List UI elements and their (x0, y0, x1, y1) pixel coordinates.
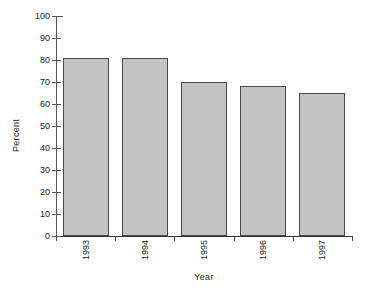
y-axis-tick-label: 10 (40, 210, 50, 219)
y-axis-tick-label: 80 (40, 56, 50, 65)
plot-area (56, 16, 352, 236)
bar (122, 58, 168, 236)
x-axis-tick-label-group: 19931994199519961997 (56, 240, 352, 274)
y-axis-tick-label: 0 (45, 232, 50, 241)
x-axis-tick-label: 1994 (141, 240, 150, 260)
y-axis-tick-label: 60 (40, 100, 50, 109)
y-axis-tick-label: 90 (40, 34, 50, 43)
y-axis-tick-mark (52, 236, 63, 237)
x-axis-tick-label: 1996 (259, 240, 268, 260)
y-axis-tick-label: 50 (40, 122, 50, 131)
bar (299, 93, 345, 236)
bar (63, 58, 109, 236)
bar-series-group (56, 16, 352, 236)
x-axis-tick-mark (352, 236, 353, 241)
y-axis-tick-label-group: 0102030405060708090100 (24, 10, 50, 242)
y-axis-tick-label: 100 (35, 12, 50, 21)
x-axis-line (55, 236, 352, 237)
y-axis-tick-label: 70 (40, 78, 50, 87)
x-axis-tick-label: 1993 (82, 240, 91, 260)
x-axis-tick-label: 1997 (318, 240, 327, 260)
y-axis-tick-label: 30 (40, 166, 50, 175)
bar (181, 82, 227, 236)
x-axis-title: Year (56, 272, 352, 282)
bar-chart-figure: Percent 0102030405060708090100 199319941… (0, 0, 370, 288)
y-axis-title: Percent (8, 100, 24, 170)
bar (240, 86, 286, 236)
y-axis-tick-label: 40 (40, 144, 50, 153)
x-axis-tick-label: 1995 (200, 240, 209, 260)
y-axis-tick-label: 20 (40, 188, 50, 197)
